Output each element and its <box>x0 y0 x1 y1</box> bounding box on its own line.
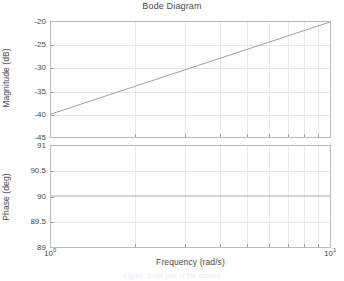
x-minor-tick <box>185 134 186 137</box>
y-tick <box>51 45 54 46</box>
y-tick <box>51 68 54 69</box>
x-minor-tick <box>135 134 136 137</box>
magnitude-axis-label: Magnitude (dB) <box>1 46 11 110</box>
y-tick <box>51 197 54 198</box>
x-minor-tick <box>269 134 270 137</box>
x-tick-exponent: 1 <box>333 247 336 253</box>
y-tick <box>51 222 54 223</box>
magnitude-y-tick-label: -35 <box>34 87 46 96</box>
magnitude-y-tick-label: -25 <box>34 40 46 49</box>
phase-y-tick-label: 89.5 <box>30 217 46 226</box>
x-minor-tick <box>220 134 221 137</box>
phase-axis-label: Phase (deg) <box>1 168 11 226</box>
bode-figure: Bode Diagram -20 <box>0 0 344 281</box>
magnitude-response-curve <box>51 22 330 137</box>
x-minor-tick <box>247 134 248 137</box>
phase-y-tick-label: 90.5 <box>30 166 46 175</box>
magnitude-y-tick-label: -40 <box>34 110 46 119</box>
x-axis-label: Frequency (rad/s) <box>50 257 331 267</box>
y-tick <box>51 92 54 93</box>
x-minor-tick <box>220 244 221 247</box>
y-tick <box>51 115 54 116</box>
x-minor-tick <box>318 134 319 137</box>
x-minor-tick <box>288 244 289 247</box>
x-minor-tick <box>135 244 136 247</box>
x-minor-tick <box>269 244 270 247</box>
phase-plot-area <box>50 145 331 248</box>
page-title: Bode Diagram <box>0 1 344 11</box>
y-tick <box>51 171 54 172</box>
magnitude-plot-area <box>50 21 331 138</box>
phase-response-curve <box>51 146 330 247</box>
x-minor-tick <box>304 244 305 247</box>
x-minor-tick <box>318 244 319 247</box>
magnitude-y-tick-label: -20 <box>34 17 46 26</box>
x-minor-tick <box>304 134 305 137</box>
x-tick-exponent: 0 <box>53 247 56 253</box>
phase-y-tick-label: 90 <box>37 192 46 201</box>
x-minor-tick <box>288 134 289 137</box>
magnitude-y-tick-label: -30 <box>34 63 46 72</box>
phase-y-tick-label: 91 <box>37 141 46 150</box>
x-minor-tick <box>185 244 186 247</box>
x-minor-tick <box>247 244 248 247</box>
figure-caption: Figure: Bode plot of the system <box>0 272 344 281</box>
